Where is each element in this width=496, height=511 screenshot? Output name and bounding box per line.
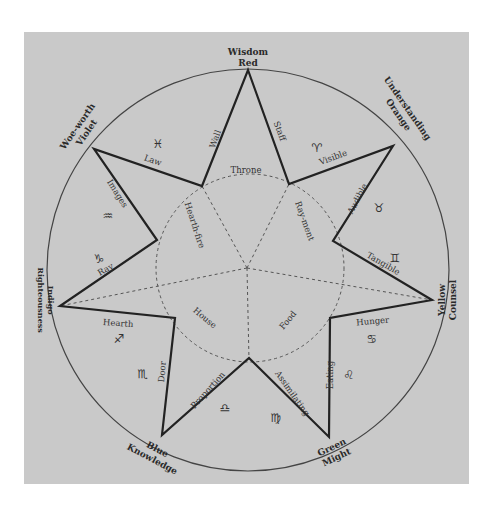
leo-icon: ♌ <box>344 368 355 382</box>
svg-text:Wisdom: Wisdom <box>227 47 269 57</box>
point-label-upper-right: Understanding Orange <box>373 75 434 149</box>
edge-label-eating: Eating <box>325 360 335 389</box>
inner-label-food: Food <box>277 308 299 331</box>
edge-label-audible: Audible <box>345 182 370 217</box>
virgo-icon: ♍ <box>271 411 282 425</box>
edge-label-hunger: Hunger <box>356 315 391 328</box>
point-label-lower-right: Green Might <box>316 436 353 468</box>
aquarius-icon: ♒ <box>103 209 114 223</box>
inner-label-raiment: Ray-ment <box>293 200 317 243</box>
capricorn-icon: ♑ <box>94 252 105 266</box>
svg-text:Yellow: Yellow <box>437 284 447 317</box>
scorpio-icon: ♏ <box>138 367 149 381</box>
point-label-top: Wisdom Red <box>227 47 269 68</box>
pisces-icon: ♓ <box>153 137 164 151</box>
point-label-right: Yellow Counsel <box>437 279 458 320</box>
point-label-lower-left: Blue Knowledge <box>125 432 184 477</box>
inner-label-throne: Throne <box>231 165 262 175</box>
svg-text:Indigo: Indigo <box>46 285 56 315</box>
aries-icon: ♈ <box>312 141 323 155</box>
cancer-icon: ♋ <box>367 332 378 346</box>
inner-label-hearthfire: Hearth-fire <box>183 201 207 250</box>
edge-label-hearth: Hearth <box>103 317 135 329</box>
svg-text:Counsel: Counsel <box>448 279 458 320</box>
libra-icon: ♎ <box>220 401 231 415</box>
sagittarius-icon: ♐ <box>114 332 125 346</box>
taurus-icon: ♉ <box>374 201 385 215</box>
point-label-left: Indigo Righteousness <box>36 267 56 333</box>
svg-text:Red: Red <box>238 58 258 68</box>
edge-label-images: Images <box>105 177 130 209</box>
inner-label-house: House <box>191 305 218 330</box>
star-diagram: Wisdom Red Understanding Orange Yellow C… <box>0 0 496 511</box>
gemini-icon: ♊ <box>390 251 401 265</box>
svg-text:Righteousness: Righteousness <box>36 267 46 333</box>
edge-label-door: Door <box>156 360 168 383</box>
